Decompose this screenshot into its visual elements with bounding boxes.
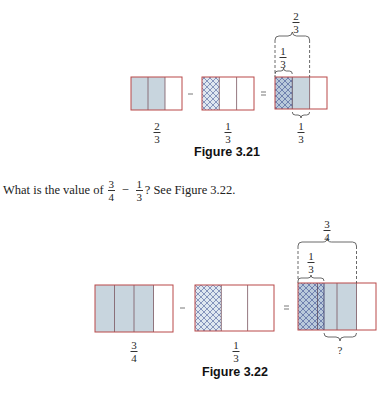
fig321-middle-label: 1 3 <box>225 121 232 144</box>
numerator: 1 <box>308 251 314 261</box>
denominator: 3 <box>136 192 142 202</box>
denominator: 3 <box>280 59 286 69</box>
numerator: 1 <box>233 340 239 350</box>
denominator: 3 <box>293 24 299 34</box>
denominator: 4 <box>324 232 330 242</box>
question-minus: − <box>122 183 129 198</box>
numerator: 2 <box>293 11 299 21</box>
question-fraction-a: 3 4 <box>108 179 115 202</box>
question-text: What is the value of 3 4 − 1 3 ? See Fig… <box>3 179 235 202</box>
numerator: 1 <box>136 179 142 189</box>
denominator: 3 <box>225 134 231 144</box>
denominator: 4 <box>131 353 137 363</box>
fig322-left-label: 3 4 <box>131 340 138 363</box>
numerator: 3 <box>324 219 330 229</box>
fig322-middle-label: 1 3 <box>233 340 240 363</box>
numerator: 1 <box>298 121 304 131</box>
fig322-top-brace-label: 3 4 <box>324 219 331 242</box>
denominator: 4 <box>108 192 114 202</box>
fig322-bottom-brace <box>324 333 357 341</box>
fig322-result-unknown: ? <box>338 344 343 356</box>
fig322-left-bar <box>95 285 173 332</box>
fig321-left-bar <box>131 77 182 110</box>
fig322-inner-brace-label: 1 3 <box>308 251 315 274</box>
numerator: 2 <box>154 121 160 131</box>
fig321-inner-brace-label: 1 3 <box>280 46 287 69</box>
fig322-middle-bar <box>195 285 274 331</box>
denominator: 3 <box>233 353 239 363</box>
fig321-top-brace-label: 2 3 <box>293 11 300 34</box>
numerator: 1 <box>225 121 231 131</box>
denominator: 3 <box>154 134 160 144</box>
fig322-inner-brace <box>298 275 324 281</box>
denominator: 3 <box>298 134 304 144</box>
numerator: 1 <box>280 46 286 56</box>
fig321-result-label: 1 3 <box>298 121 305 144</box>
fig321-result-bar <box>275 77 327 109</box>
question-suffix: ? See Figure 3.22. <box>145 183 236 198</box>
figure-3-21-caption: Figure 3.21 <box>194 145 260 159</box>
fig322-equals-sign <box>284 306 289 309</box>
numerator: 3 <box>108 179 114 189</box>
fig321-left-label: 2 3 <box>154 121 161 144</box>
question-fraction-b: 1 3 <box>136 179 143 202</box>
question-prefix: What is the value of <box>3 183 104 198</box>
figure-3-22-caption: Figure 3.22 <box>202 365 268 379</box>
fig321-equals-sign <box>261 92 266 95</box>
numerator: 3 <box>131 340 137 350</box>
fig321-bottom-brace <box>292 112 309 118</box>
denominator: 3 <box>308 264 314 274</box>
fig321-middle-bar <box>202 77 254 110</box>
fig322-result-bar <box>298 283 376 330</box>
